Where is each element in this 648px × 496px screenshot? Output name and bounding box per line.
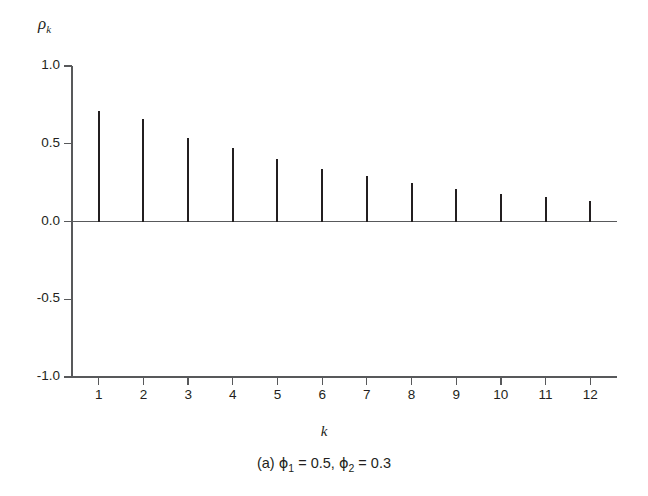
caption-phi1-symbol: ϕ xyxy=(279,455,289,471)
x-tick-label: 4 xyxy=(218,387,248,402)
x-tick-label: 8 xyxy=(397,387,427,402)
caption-phi2-subscript: 2 xyxy=(348,462,354,474)
y-tick-label: -0.5 xyxy=(8,290,60,305)
x-tick-label: 5 xyxy=(262,387,292,402)
figure-root: ρk k (a) ϕ1 = 0.5, ϕ2 = 0.3 1.00.50.0-0.… xyxy=(0,0,648,496)
x-tick-label: 1 xyxy=(84,387,114,402)
caption-phi1-value: = 0.5, xyxy=(298,455,335,471)
figure-caption: (a) ϕ1 = 0.5, ϕ2 = 0.3 xyxy=(0,455,648,474)
x-tick-label: 3 xyxy=(173,387,203,402)
x-tick-label: 10 xyxy=(486,387,516,402)
caption-phi2-value: = 0.3 xyxy=(358,455,391,471)
y-tick-label: -1.0 xyxy=(8,368,60,383)
caption-prefix: (a) xyxy=(257,455,275,471)
x-tick-label: 12 xyxy=(575,387,605,402)
caption-phi1-subscript: 1 xyxy=(288,462,294,474)
x-tick-label: 2 xyxy=(128,387,158,402)
plot-svg xyxy=(0,0,648,496)
y-tick-label: 0.0 xyxy=(8,213,60,228)
y-tick-label: 1.0 xyxy=(8,57,60,72)
x-tick-label: 6 xyxy=(307,387,337,402)
x-tick-label: 7 xyxy=(352,387,382,402)
x-axis-label: k xyxy=(0,423,648,440)
x-tick-label: 11 xyxy=(531,387,561,402)
plot-area xyxy=(0,0,648,496)
x-tick-label: 9 xyxy=(441,387,471,402)
y-tick-label: 0.5 xyxy=(8,135,60,150)
